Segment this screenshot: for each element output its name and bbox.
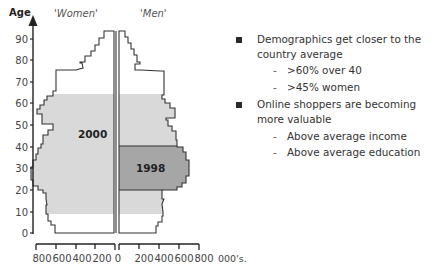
y-axis: 90 80 70 60 50 40 30 20 10 0 xyxy=(15,15,37,239)
age-axis-label: Age xyxy=(9,7,31,18)
population-pyramid-chart: 90 80 70 60 50 40 30 20 10 0 800 600 400… xyxy=(0,0,236,275)
men-label: 'Men' xyxy=(140,8,167,19)
x-tick-labels: 800 600 400 200 0 200 400 600 800 xyxy=(32,253,213,264)
dash-bullet-icon: - xyxy=(273,145,277,160)
dash-bullet-icon: - xyxy=(273,80,277,95)
label-2000: 2000 xyxy=(78,128,107,140)
label-1998: 1998 xyxy=(136,162,165,174)
y-tick-60: 60 xyxy=(15,98,28,109)
y-tick-0: 0 xyxy=(22,228,28,239)
x-axis-men xyxy=(119,244,199,250)
svg-text:400: 400 xyxy=(72,253,91,264)
svg-text:800: 800 xyxy=(194,253,213,264)
svg-text:0: 0 xyxy=(115,253,121,264)
units-label: 000's. xyxy=(218,253,247,264)
bullet-list: Demographics get closer to the country a… xyxy=(236,32,436,163)
y-tick-80: 80 xyxy=(15,55,28,66)
women-label: 'Women' xyxy=(54,8,98,19)
y-tick-70: 70 xyxy=(15,77,28,88)
square-bullet-icon xyxy=(236,102,242,108)
svg-text:400: 400 xyxy=(154,253,173,264)
y-tick-50: 50 xyxy=(15,120,28,131)
y-tick-10: 10 xyxy=(15,207,28,218)
y-tick-90: 90 xyxy=(15,34,28,45)
sub-bullet-item: -Above average income xyxy=(257,129,436,144)
sub-bullet-item: ->45% women xyxy=(257,80,436,95)
svg-text:200: 200 xyxy=(134,253,153,264)
y-tick-30: 30 xyxy=(15,163,28,174)
y-tick-20: 20 xyxy=(15,185,28,196)
svg-text:600: 600 xyxy=(174,253,193,264)
bullet-group-demographics: Demographics get closer to the country a… xyxy=(236,32,436,94)
square-bullet-icon xyxy=(236,37,242,43)
svg-text:200: 200 xyxy=(92,253,111,264)
x-axis-women xyxy=(36,244,115,250)
sub-bullet-item: -Above average education xyxy=(257,145,436,160)
dash-bullet-icon: - xyxy=(273,129,277,144)
svg-text:800: 800 xyxy=(32,253,51,264)
y-tick-40: 40 xyxy=(15,142,28,153)
svg-text:600: 600 xyxy=(52,253,71,264)
sub-bullet-item: ->60% over 40 xyxy=(257,63,436,78)
bullet-item: Online shoppers are becoming more valuab… xyxy=(236,97,436,126)
bullet-item: Demographics get closer to the country a… xyxy=(236,32,436,61)
bullet-group-shoppers: Online shoppers are becoming more valuab… xyxy=(236,97,436,159)
dash-bullet-icon: - xyxy=(273,63,277,78)
